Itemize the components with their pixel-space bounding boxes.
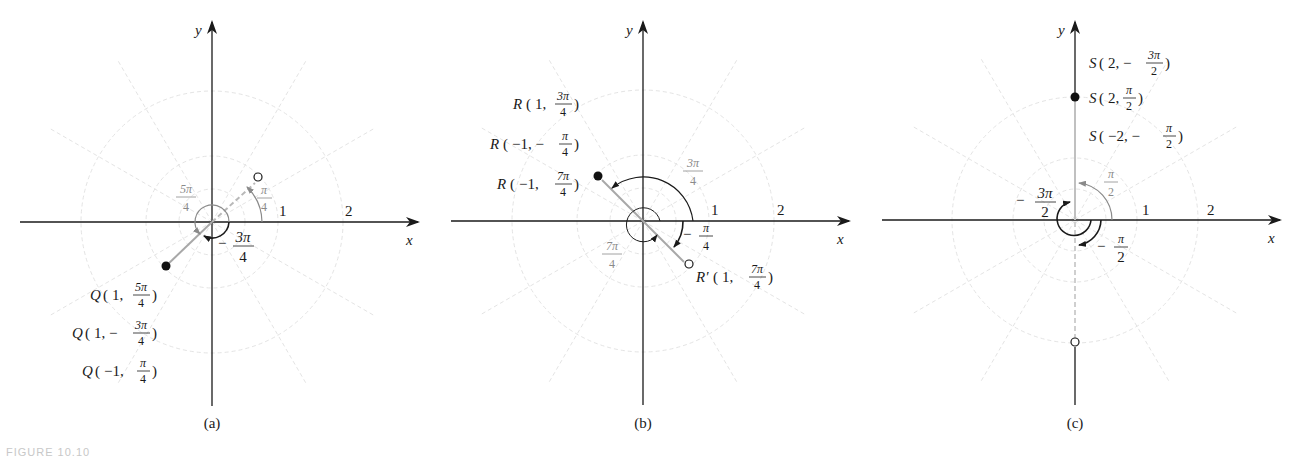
point-s-filled [1071,93,1080,102]
svg-text:2: 2 [1166,137,1172,151]
svg-text:3π: 3π [234,229,251,245]
svg-text:7π: 7π [557,169,570,183]
svg-text:3π: 3π [1036,185,1053,201]
angle-label-neg-pi-over-4: − π 4 [683,221,713,253]
svg-text:−2, −: −2, − [1108,128,1140,144]
point-r-prime-open [685,260,693,268]
svg-text:4: 4 [560,185,566,199]
s-representation-2: S ( 2, π 2 ) [1089,83,1143,113]
tick-1: 1 [1142,202,1150,218]
svg-text:2, −: 2, − [1108,55,1131,71]
svg-text:5π: 5π [135,280,148,294]
tick-1: 1 [279,203,287,219]
svg-text:π: π [703,221,710,235]
svg-text:−: − [683,226,691,242]
svg-text:): ) [1165,55,1170,72]
svg-text:4: 4 [609,257,615,271]
svg-text:): ) [152,363,157,380]
point-q-open [254,173,262,181]
svg-text:−: − [1016,192,1024,208]
svg-text:7π: 7π [751,262,764,276]
svg-text:Q: Q [82,363,93,379]
svg-text:): ) [574,136,579,153]
svg-text:S: S [1089,90,1097,106]
y-axis-label: y [624,22,633,38]
svg-text:4: 4 [562,145,568,159]
q-representation-1: Q ( 1, 5π 4 ) [90,280,157,310]
svg-text:π: π [1166,121,1173,135]
svg-text:(: ( [85,325,90,342]
svg-text:2,: 2, [1108,90,1119,106]
svg-text:4: 4 [754,278,760,292]
svg-text:2: 2 [1151,64,1157,78]
svg-text:π: π [261,183,268,197]
svg-text:): ) [574,96,579,113]
svg-text:(: ( [95,363,100,380]
svg-text:−1,: −1, [519,176,539,192]
svg-text:(: ( [1099,55,1104,72]
svg-text:(: ( [713,269,718,286]
svg-text:π: π [1126,83,1133,97]
svg-text:): ) [152,325,157,342]
svg-text:(: ( [510,176,515,193]
svg-text:1, −: 1, − [94,325,117,341]
svg-text:4: 4 [703,239,709,253]
svg-text:3π: 3π [556,89,570,103]
svg-text:R′: R′ [695,269,709,285]
svg-text:−: − [218,235,226,251]
point-s-open [1071,338,1079,346]
angle-label-5pi-over-4: 5π 4 [176,182,196,214]
svg-text:3π: 3π [686,156,700,170]
svg-text:R: R [496,176,506,192]
svg-text:R: R [489,136,499,152]
svg-text:1,: 1, [722,269,733,285]
r-prime-representation: R′ ( 1, 7π 4 ) [695,262,773,292]
svg-text:(: ( [526,96,531,113]
svg-text:4: 4 [183,200,189,214]
svg-text:4: 4 [690,174,696,188]
svg-text:2: 2 [1126,99,1132,113]
panel-c-label: (c) [1067,415,1084,432]
svg-text:S: S [1089,55,1097,71]
svg-text:): ) [1138,90,1143,107]
figure-caption-fragment: FIGURE 10.10 [6,446,90,458]
angle-label-neg-3pi-over-2: − 3π 2 [1016,185,1056,220]
angle-label-3pi-over-4: 3π 4 [683,156,703,188]
tick-2: 2 [777,202,785,218]
svg-text:): ) [1178,128,1183,145]
panel-c: y x 1 2 π 2 − 3π 2 − π 2 S ( 2, − 3 [882,22,1280,432]
svg-text:π: π [562,129,569,143]
s-representation-3: S ( −2, − π 2 ) [1089,121,1183,151]
svg-text:2: 2 [1108,185,1114,199]
angle-label-pi-over-4: π 4 [257,183,272,214]
q-representation-2: Q ( 1, − 3π 4 ) [72,318,157,348]
svg-text:2: 2 [1041,204,1049,220]
svg-text:Q: Q [90,287,101,303]
tick-2: 2 [1207,202,1215,218]
tick-2: 2 [345,203,353,219]
svg-text:(: ( [503,136,508,153]
svg-text:π: π [1118,232,1125,246]
x-axis-label: x [405,232,413,248]
svg-text:Q: Q [72,325,83,341]
svg-text:(: ( [103,287,108,304]
angle-label-neg-pi-over-2: − π 2 [1097,232,1128,265]
angle-label-neg-3pi-over-4: − 3π 4 [218,229,254,265]
x-axis-label: x [1267,230,1275,246]
x-axis-label: x [836,231,844,247]
svg-text:(: ( [1099,128,1104,145]
svg-text:): ) [768,269,773,286]
svg-text:7π: 7π [606,239,619,253]
panel-a: y x 1 2 π 4 5π 4 − 3π 4 [20,22,418,432]
svg-text:2: 2 [1117,249,1125,265]
svg-text:4: 4 [138,334,144,348]
r-representation-2: R ( −1, − π 4 ) [489,129,579,159]
panel-b: y x 1 2 3π 4 − π 4 7π 4 R ( 1, 3π [451,22,849,432]
svg-text:3π: 3π [1147,48,1161,62]
point-q-filled [162,262,171,271]
svg-text:5π: 5π [180,182,193,196]
angle-label-pi-over-2: π 2 [1104,167,1118,199]
svg-text:R: R [512,96,522,112]
y-axis-label: y [193,22,202,38]
